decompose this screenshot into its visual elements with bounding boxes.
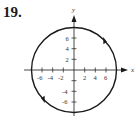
- x-tick-label: 2: [83, 74, 86, 81]
- y-tick-label: -6: [62, 98, 68, 105]
- y-tick-label: 6: [66, 35, 70, 42]
- x-tick-label: -2: [58, 74, 63, 81]
- circle-graph: x y -6 -4 -2 2 4 6 6 4 2 -4 -6: [0, 0, 137, 122]
- x-tick-label: 6: [104, 74, 108, 81]
- y-tick-label: 2: [66, 56, 69, 63]
- x-axis-arrow-icon: [121, 68, 128, 73]
- y-axis-arrow-icon: [72, 15, 77, 22]
- y-axis-label: y: [71, 6, 76, 14]
- y-tick-label: 4: [66, 45, 70, 52]
- x-tick-label: -6: [37, 74, 43, 81]
- x-axis-label: x: [130, 66, 135, 74]
- x-tick-label: -4: [48, 74, 54, 81]
- y-tick-label: -4: [62, 88, 68, 95]
- x-tick-label: 4: [94, 74, 98, 81]
